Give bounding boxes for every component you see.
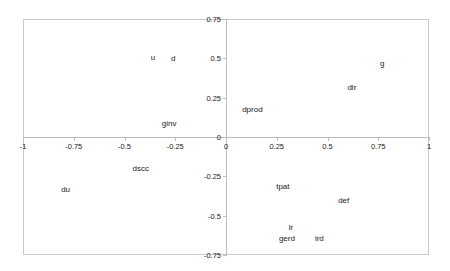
data-point-label: dprod: [242, 104, 262, 113]
y-tick-mark: [223, 98, 227, 99]
x-tick-mark: [175, 137, 176, 141]
data-point-label: lr: [289, 222, 293, 231]
y-tick-label: -0.5: [208, 211, 221, 220]
x-tick-label: 0.25: [269, 142, 284, 151]
x-tick-mark: [328, 137, 329, 141]
y-tick-label: -0.75: [204, 251, 221, 260]
x-tick-mark: [74, 137, 75, 141]
x-tick-mark: [277, 137, 278, 141]
x-tick-mark: [429, 137, 430, 141]
x-tick-label: 1: [427, 142, 431, 151]
x-tick-mark: [125, 137, 126, 141]
data-point-label: dscc: [133, 164, 149, 173]
scatter-plot: -1-0.75-0.5-0.2500.250.50.751 0.750.50.2…: [0, 0, 450, 271]
y-tick-mark: [223, 19, 227, 20]
data-point-label: du: [61, 184, 70, 193]
y-tick-mark: [223, 58, 227, 59]
x-tick-mark: [378, 137, 379, 141]
data-point-label: lrd: [315, 233, 324, 242]
x-tick-label: -1: [20, 142, 27, 151]
x-tick-label: 0.5: [322, 142, 332, 151]
y-tick-mark: [223, 137, 227, 138]
y-tick-mark: [223, 216, 227, 217]
data-point-label: def: [338, 195, 349, 204]
x-tick-mark: [23, 137, 24, 141]
data-point-label: ginv: [162, 118, 177, 127]
data-point-label: dlr: [347, 82, 356, 91]
x-tick-label: 0.75: [371, 142, 386, 151]
y-tick-mark: [223, 255, 227, 256]
data-point-label: u: [151, 52, 155, 61]
data-point-label: g: [380, 59, 384, 68]
data-point-label: tpat: [276, 181, 289, 190]
x-tick-label: -0.5: [118, 142, 131, 151]
x-tick-label: 0: [224, 142, 228, 151]
y-tick-label: 0.25: [206, 93, 221, 102]
data-point-label: d: [171, 54, 175, 63]
y-tick-label: 0.75: [206, 15, 221, 24]
data-point-label: gerd: [279, 233, 295, 242]
y-tick-mark: [223, 176, 227, 177]
x-tick-label: -0.75: [65, 142, 82, 151]
x-tick-label: -0.25: [167, 142, 184, 151]
y-tick-label: -0.25: [204, 172, 221, 181]
y-tick-label: 0.5: [211, 54, 221, 63]
y-tick-label: 0: [217, 133, 221, 142]
